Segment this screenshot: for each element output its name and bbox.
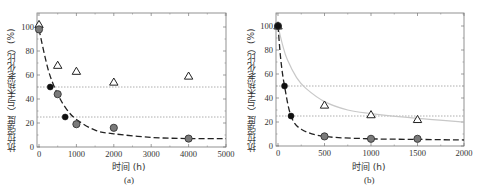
triangle-marker [110,78,118,85]
triangle-marker [320,101,328,108]
gray-circle-marker [110,124,117,131]
black-circle-marker [282,83,288,89]
fit-curve-gray [278,26,464,122]
y-tick-label: 40 [265,93,274,103]
x-tick-label: 4000 [180,149,197,159]
black-circle-marker [62,114,68,120]
x-tick-label: 3000 [143,149,160,159]
x-tick-label: 1000 [68,149,85,159]
chart-panel-a: 010002000300040005000020406080100 抗拉强度（与… [0,0,240,191]
chart-b-ylabel: 抗拉强度（与未热老化比）(%) [244,22,257,152]
gray-circle-marker [414,135,421,142]
black-circle-marker [288,113,294,119]
black-circle-marker [47,84,53,90]
gray-circle-marker [185,135,192,142]
gray-circle-marker [73,121,80,128]
plot-frame [276,13,464,146]
y-tick-label: 100 [260,21,273,31]
x-tick-label: 2000 [456,148,473,158]
triangle-marker [72,67,80,74]
x-tick-label: 2000 [105,149,122,159]
triangle-marker [184,72,192,79]
y-tick-label: 40 [26,94,35,104]
x-tick-label: 1500 [409,148,426,158]
chart-a-xlabel: 时间 (h) [112,160,146,173]
x-tick-label: 0 [37,149,41,159]
y-tick-label: 0 [30,142,34,152]
x-tick-label: 5000 [218,149,235,159]
chart-panel-b: 0500100015002000020406080100 抗拉强度（与未热老化比… [240,0,480,191]
y-tick-label: 80 [265,45,274,55]
x-tick-label: 500 [318,148,331,158]
gray-circle-marker [54,91,61,98]
y-tick-label: 20 [26,118,35,128]
y-tick-label: 20 [265,117,274,127]
fit-curve-dashed [39,29,226,138]
triangle-marker [54,61,62,68]
y-tick-label: 80 [26,46,35,56]
y-tick-label: 100 [21,22,34,32]
gray-circle-marker [367,135,374,142]
x-tick-label: 1000 [363,148,380,158]
fit-curve-dashed [278,26,464,140]
y-tick-label: 60 [26,70,35,80]
chart-b-caption: (b) [364,175,375,185]
black-circle-marker [275,23,281,29]
x-tick-label: 0 [276,148,280,158]
y-tick-label: 60 [265,69,274,79]
chart-b-xlabel: 时间 (h) [352,160,386,173]
plot-frame [37,13,226,147]
y-tick-label: 0 [269,141,273,151]
chart-a-ylabel: 抗拉强度（与未热老化比）(%) [4,22,17,152]
gray-circle-marker [35,26,42,33]
gray-circle-marker [321,133,328,140]
chart-a-caption: (a) [124,175,134,185]
